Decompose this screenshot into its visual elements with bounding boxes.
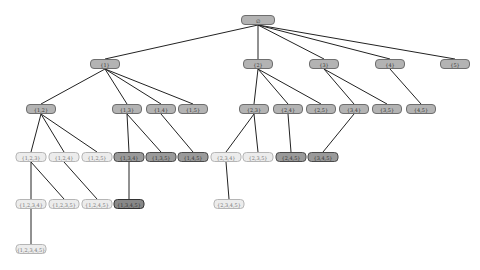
tree-edge — [226, 114, 254, 152]
tree-node: ∅ — [241, 15, 275, 25]
tree-edge — [31, 162, 64, 199]
tree-edges — [0, 0, 480, 270]
tree-edge — [323, 114, 354, 152]
tree-node: {4,5} — [406, 104, 436, 114]
tree-node: {4} — [375, 59, 405, 69]
tree-node: {2,4,5} — [276, 152, 307, 162]
tree-edge — [324, 69, 387, 104]
tree-node: {3,5} — [372, 104, 402, 114]
tree-node: {1,2,4} — [49, 152, 80, 162]
tree-node: {2,3,5} — [243, 152, 274, 162]
tree-node: {2,4} — [273, 104, 303, 114]
tree-edge — [127, 114, 161, 152]
tree-node: {1,2,3} — [16, 152, 47, 162]
tree-node: {1,2} — [26, 104, 56, 114]
tree-node: {5} — [440, 59, 470, 69]
tree-node: {1,2,3,4} — [16, 199, 47, 209]
tree-node: {1,3,5} — [146, 152, 177, 162]
tree-node: {2,3,4} — [211, 152, 242, 162]
tree-edge — [127, 114, 129, 152]
tree-node: {1,2,3,5} — [49, 199, 80, 209]
tree-edge — [258, 25, 324, 59]
tree-node: {3} — [309, 59, 339, 69]
tree-node: {1} — [90, 59, 120, 69]
tree-node: {1,3,4,5} — [114, 199, 145, 209]
tree-node: {1,2,3,4,5} — [16, 244, 47, 254]
tree-node: {1,5} — [178, 104, 208, 114]
tree-edge — [254, 114, 258, 152]
tree-node: {3,4} — [339, 104, 369, 114]
tree-node: {1,2,5} — [82, 152, 113, 162]
tree-node: {1,2,4,5} — [82, 199, 113, 209]
tree-edge — [390, 69, 421, 104]
tree-edge — [324, 69, 354, 104]
tree-node: {1,4,5} — [178, 152, 209, 162]
tree-node: {1,3} — [112, 104, 142, 114]
tree-edge — [41, 69, 105, 104]
tree-edge — [254, 69, 258, 104]
tree-node: {2,3,4,5} — [214, 199, 245, 209]
tree-edge — [105, 69, 161, 104]
tree-node: {2,5} — [306, 104, 336, 114]
tree-edge — [105, 69, 127, 104]
tree-edge — [41, 114, 64, 152]
tree-edge — [258, 69, 321, 104]
tree-edge — [226, 162, 229, 199]
tree-edge — [31, 114, 41, 152]
tree-edge — [288, 114, 291, 152]
tree-node: {3,4,5} — [308, 152, 339, 162]
tree-edge — [105, 69, 193, 104]
tree-edge — [258, 25, 390, 59]
tree-edge — [41, 114, 97, 152]
tree-node: {2,3} — [239, 104, 269, 114]
tree-node: {1,3,4} — [114, 152, 145, 162]
tree-node: {1,4} — [146, 104, 176, 114]
tree-edge — [64, 162, 97, 199]
tree-edge — [105, 25, 258, 59]
tree-edge — [258, 69, 288, 104]
tree-node: {2} — [243, 59, 273, 69]
tree-edge — [161, 114, 193, 152]
tree-edge — [258, 25, 455, 59]
